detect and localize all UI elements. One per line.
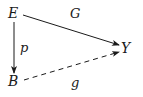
label-p: p (20, 41, 28, 54)
label-upper-g: G (70, 7, 80, 20)
commutative-diagram: E B Y p G g (0, 0, 143, 97)
node-b: B (8, 74, 18, 88)
node-e: E (8, 6, 18, 20)
label-lower-g: g (71, 76, 79, 89)
node-y: Y (121, 41, 130, 55)
